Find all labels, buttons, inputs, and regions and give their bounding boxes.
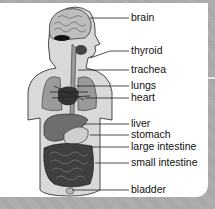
- human-body-illustration: [0, 0, 215, 209]
- bladder-shape: [66, 188, 74, 194]
- brain-shape: [49, 9, 91, 40]
- label-brain: brain: [131, 12, 154, 23]
- cerebellum-shape: [54, 35, 70, 41]
- label-heart: heart: [131, 92, 155, 103]
- label-large-intestine: large intestine: [131, 141, 196, 152]
- label-lungs: lungs: [131, 80, 156, 91]
- label-thyroid: thyroid: [131, 45, 163, 56]
- intestines-shape: [44, 143, 94, 187]
- label-stomach: stomach: [131, 129, 171, 140]
- label-small-intestine: small intestine: [131, 157, 198, 168]
- label-bladder: bladder: [131, 184, 166, 195]
- label-trachea: trachea: [131, 64, 166, 75]
